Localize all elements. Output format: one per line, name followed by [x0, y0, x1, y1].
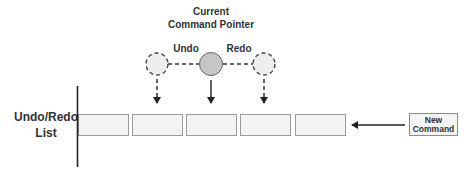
- undo-redo-diagram: Current Command Pointer Undo Redo Undo/R…: [0, 0, 476, 176]
- current-pointer-node: [200, 53, 223, 76]
- diagram-graphics: [0, 0, 476, 176]
- redo-position-node: [253, 53, 275, 75]
- undo-position-node: [146, 53, 168, 75]
